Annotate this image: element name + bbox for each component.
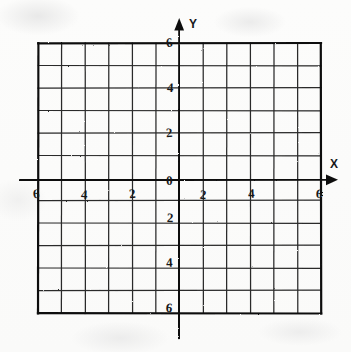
y-tick-label-neg4: 4 xyxy=(166,256,173,269)
y-tick-label-pos2: 2 xyxy=(166,126,173,139)
x-axis-label: X xyxy=(330,158,338,170)
coordinate-plane-svg xyxy=(0,0,351,352)
x-tick-label-neg6: 6 xyxy=(33,187,40,200)
coordinate-grid-figure: Y X 0 6 4 2 2 4 6 6 4 2 2 4 6 xyxy=(0,0,351,352)
x-axis-line xyxy=(20,180,327,181)
x-tick-label-pos4: 4 xyxy=(248,187,255,200)
x-axis-arrowhead-icon xyxy=(326,175,338,186)
y-axis-arrowhead-icon xyxy=(174,18,184,31)
y-tick-label-neg6: 6 xyxy=(165,301,173,315)
y-tick-label-pos4: 4 xyxy=(167,81,174,94)
x-tick-label-pos2: 2 xyxy=(199,188,207,202)
origin-label: 0 xyxy=(166,174,173,187)
y-axis-label: Y xyxy=(189,18,197,30)
x-tick-label-neg2: 2 xyxy=(128,187,136,201)
x-tick-label-pos6: 6 xyxy=(316,187,323,200)
y-tick-label-neg2: 2 xyxy=(167,211,174,224)
y-tick-label-pos6: 6 xyxy=(165,36,173,50)
x-tick-label-neg4: 4 xyxy=(81,188,88,201)
